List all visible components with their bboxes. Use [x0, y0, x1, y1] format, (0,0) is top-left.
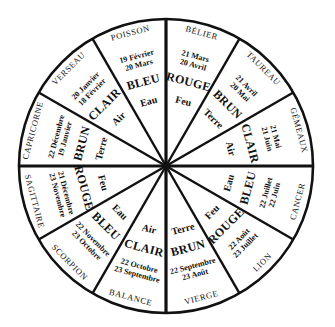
- zodiac-wheel: BÉLIER21 Mars20 AvrilROUGEFeuTAUREAU21 A…: [0, 0, 335, 327]
- wheel-center-hub: [164, 164, 169, 169]
